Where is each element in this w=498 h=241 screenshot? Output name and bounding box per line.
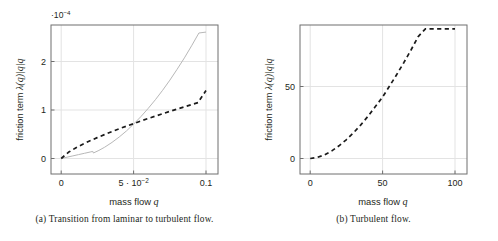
figure-row: ·10−4 2 1 0 0 5 · 10−2 0.1 mass flow q f…	[0, 0, 498, 241]
subfigure-caption-a: (a) Transition from laminar to turbulent…	[0, 214, 249, 224]
ytick-label-a-0: 0	[41, 154, 46, 164]
plot-background-b	[300, 25, 467, 174]
x-axis-title-b: mass flow q	[358, 196, 407, 207]
xtick-label-b-2: 100	[447, 178, 462, 188]
plot-area-b: 50 0 0 50 100 mass flow q friction term …	[249, 0, 498, 212]
xtick-label-a-2: 0.1	[200, 178, 213, 188]
chart-b: 50 0 0 50 100 mass flow q friction term …	[249, 0, 498, 212]
subfigure-caption-b: (b) Turbulent flow.	[249, 214, 498, 224]
xtick-label-b-1: 50	[378, 178, 388, 188]
ytick-label-b-1: 50	[285, 82, 295, 92]
subfigure-a: ·10−4 2 1 0 0 5 · 10−2 0.1 mass flow q f…	[0, 0, 249, 241]
subfigure-b: 50 0 0 50 100 mass flow q friction term …	[249, 0, 498, 241]
chart-a: ·10−4 2 1 0 0 5 · 10−2 0.1 mass flow q f…	[0, 0, 249, 212]
x-axis-title-a: mass flow q	[109, 196, 158, 207]
y-exponent-label-a: ·10−4	[51, 9, 71, 20]
ytick-label-a-2: 2	[41, 57, 46, 67]
plot-area-a: ·10−4 2 1 0 0 5 · 10−2 0.1 mass flow q f…	[0, 0, 249, 212]
ytick-label-b-0: 0	[290, 154, 295, 164]
y-axis-title-b: friction term λ(q)|q|q	[263, 58, 275, 140]
y-axis-title-a: friction term λ(q)|q|q	[14, 58, 26, 140]
xtick-label-a-1: 5 · 10−2	[118, 177, 149, 188]
plot-background-a	[51, 25, 218, 174]
ytick-label-a-1: 1	[41, 105, 46, 115]
xtick-label-b-0: 0	[308, 178, 313, 188]
xtick-label-a-0: 0	[59, 178, 64, 188]
